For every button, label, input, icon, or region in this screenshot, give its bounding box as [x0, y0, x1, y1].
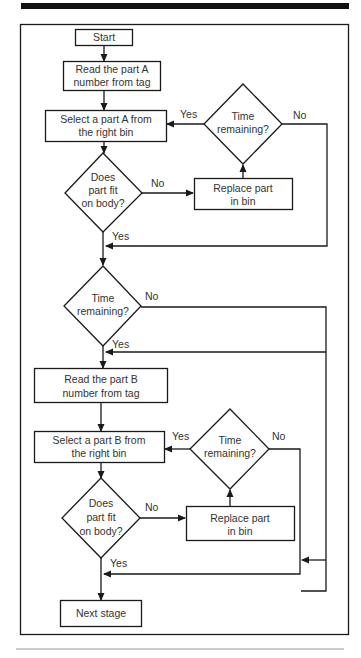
start-label: Start	[93, 31, 115, 43]
edge-label-time-a-yes: Yes	[180, 108, 197, 120]
fit-b-line1: Does	[89, 497, 114, 509]
time-b-line1: Time	[219, 434, 242, 446]
fit-b-line3: on body?	[79, 525, 122, 537]
time-mid-line2: remaining?	[77, 305, 129, 317]
fit-a-line2: part fit	[88, 184, 117, 196]
edge-label-time-mid-yes: Yes	[112, 338, 129, 350]
read-part-b-line1: Read the part B	[64, 373, 138, 385]
time-b-line2: remaining?	[204, 447, 256, 459]
edge-label-fit-a-no: No	[151, 177, 165, 189]
time-a-line1: Time	[232, 110, 255, 122]
edge-label-time-b-yes: Yes	[172, 430, 189, 442]
time-a-line2: remaining?	[217, 123, 269, 135]
edge-label-time-b-no: No	[272, 430, 286, 442]
edge-label-fit-b-yes: Yes	[110, 557, 127, 569]
replace-a-line2: in bin	[230, 195, 255, 207]
select-part-a-line1: Select a part A from	[60, 113, 152, 125]
edge-label-time-a-no: No	[293, 109, 307, 121]
select-part-a-line2: the right bin	[79, 126, 134, 138]
time-mid-line1: Time	[92, 292, 115, 304]
header-rule	[21, 3, 349, 9]
read-part-b-line2: number from tag	[62, 387, 139, 399]
read-part-a-line1: Read the part A	[76, 63, 149, 75]
edge-label-fit-a-yes: Yes	[112, 230, 129, 242]
select-part-b-line2: the right bin	[72, 447, 127, 459]
edge-label-fit-b-no: No	[145, 501, 159, 513]
replace-a-line1: Replace part	[213, 182, 273, 194]
select-part-b-line1: Select a part B from	[53, 434, 146, 446]
fit-b-line2: part fit	[86, 511, 115, 523]
edge-label-time-mid-no: No	[145, 290, 159, 302]
replace-b-line1: Replace part	[210, 512, 270, 524]
replace-b-line2: in bin	[227, 525, 252, 537]
fit-a-line1: Does	[91, 171, 116, 183]
read-part-a-line2: number from tag	[73, 76, 150, 88]
flowchart: Start Read the part A number from tag Se…	[0, 0, 361, 658]
next-stage-label: Next stage	[76, 607, 126, 619]
fit-a-line3: on body?	[81, 197, 124, 209]
